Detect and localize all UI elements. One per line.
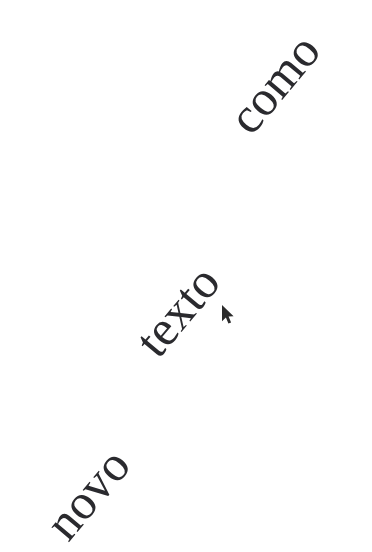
- arrow-pointer-cursor: [222, 305, 236, 326]
- canvas-text-novo[interactable]: novo: [36, 439, 139, 548]
- canvas-text-como[interactable]: como: [219, 25, 329, 142]
- canvas-text-texto[interactable]: texto: [126, 256, 229, 365]
- drawing-canvas[interactable]: novo texto como: [0, 0, 372, 552]
